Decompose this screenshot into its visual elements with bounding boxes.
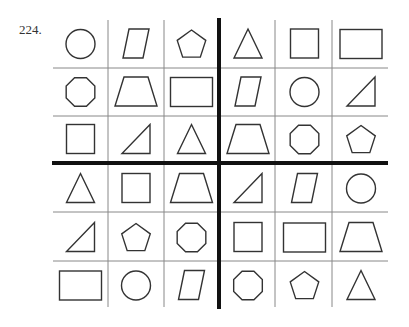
trapezoid-shape <box>340 223 382 252</box>
octagon-shape <box>290 125 319 154</box>
triangle-shape <box>178 125 206 154</box>
right-triangle-shape <box>347 77 375 106</box>
square-shape <box>122 174 150 203</box>
circle-shape <box>122 271 151 300</box>
right-triangle-shape <box>67 223 95 252</box>
rectangle-shape <box>284 223 326 252</box>
pentagon-shape <box>122 224 151 251</box>
circle-shape <box>290 78 319 107</box>
pentagon-shape <box>290 272 319 299</box>
square-shape <box>291 29 319 58</box>
triangle-shape <box>347 271 375 300</box>
pentagon-shape <box>177 30 206 57</box>
parallelogram-shape <box>123 29 149 58</box>
octagon-shape <box>234 271 263 300</box>
triangle-shape <box>67 174 95 203</box>
pentagon-shape <box>347 126 376 153</box>
right-triangle-shape <box>234 174 262 203</box>
octagon-shape <box>66 78 95 107</box>
rectangle-shape <box>340 30 382 59</box>
square-shape <box>234 223 262 252</box>
parallelogram-shape <box>292 174 318 203</box>
right-triangle-shape <box>122 125 150 154</box>
trapezoid-shape <box>227 125 269 154</box>
parallelogram-shape <box>235 77 261 106</box>
trapezoid-shape <box>171 174 213 203</box>
octagon-shape <box>177 223 206 252</box>
shape-grid <box>0 0 409 327</box>
square-shape <box>67 125 95 154</box>
rectangle-shape <box>171 78 213 107</box>
triangle-shape <box>234 29 262 58</box>
parallelogram-shape <box>179 271 205 300</box>
circle-shape <box>347 174 376 203</box>
rectangle-shape <box>60 271 102 300</box>
circle-shape <box>66 30 95 59</box>
trapezoid-shape <box>115 77 157 106</box>
